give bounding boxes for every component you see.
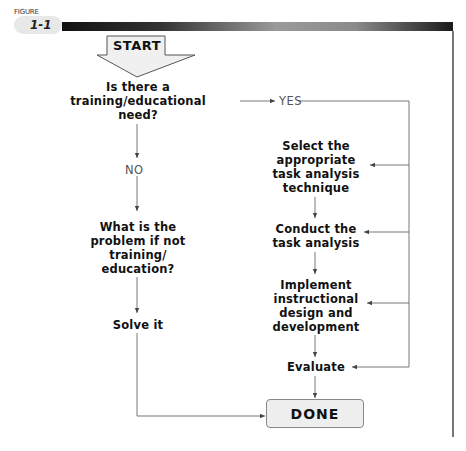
start-node: START <box>107 38 167 53</box>
step-implement-design: Implement instructional design and devel… <box>260 278 372 334</box>
no-label: NO <box>125 163 144 177</box>
decision-node: Is there a training/educational need? <box>52 80 224 122</box>
yes-label: YES <box>279 94 302 108</box>
solve-it-node: Solve it <box>96 318 180 332</box>
connector-lines <box>0 0 466 451</box>
no-branch-question-node: What is the problem if not training/ edu… <box>76 220 200 276</box>
step-select-technique: Select the appropriate task analysis tec… <box>260 139 372 195</box>
step-conduct-analysis: Conduct the task analysis <box>260 222 372 250</box>
step-evaluate: Evaluate <box>270 360 362 374</box>
done-node: DONE <box>266 399 364 428</box>
